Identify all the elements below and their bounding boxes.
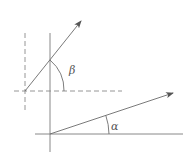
alpha-angle-arc bbox=[106, 115, 109, 134]
beta-angle-arc bbox=[50, 60, 64, 91]
alpha-label: α bbox=[111, 120, 119, 133]
upper-vector-arrow bbox=[25, 21, 81, 91]
angle-diagram: β α bbox=[0, 0, 194, 158]
beta-label: β bbox=[68, 64, 75, 77]
